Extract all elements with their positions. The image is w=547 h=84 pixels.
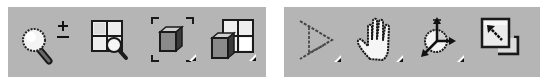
cube-in-brackets-icon [144, 7, 204, 77]
maximize-window-arrow-icon [476, 7, 536, 77]
orbit-axes-icon [413, 7, 473, 77]
zoom-all-button[interactable] [82, 7, 142, 77]
magnifier-plus-minus-icon [14, 7, 74, 77]
zoom-button[interactable] [14, 7, 74, 77]
grid-magnifier-icon [82, 7, 142, 77]
navigation-toolbar [284, 7, 540, 77]
field-of-view-triangle-icon [290, 7, 350, 77]
hand-pan-icon [352, 7, 412, 77]
field-of-view-button[interactable] [290, 7, 350, 77]
orbit-button[interactable] [413, 7, 473, 77]
zoom-toolbar [8, 7, 266, 77]
zoom-extents-all-button[interactable] [204, 7, 264, 77]
zoom-extents-button[interactable] [144, 7, 204, 77]
maximize-viewport-toggle-button[interactable] [476, 7, 536, 77]
cube-over-grid-icon [204, 7, 264, 77]
viewport-navigation-controls [0, 0, 547, 84]
pan-button[interactable] [352, 7, 412, 77]
